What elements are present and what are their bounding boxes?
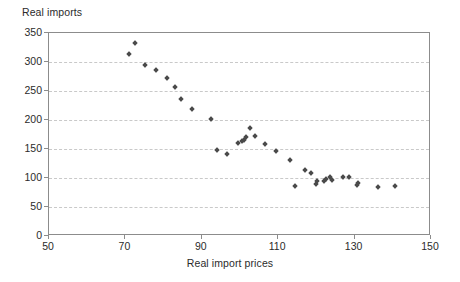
y-tick-label-100: 100 [2,171,42,183]
gridline-y-200 [49,120,429,121]
data-point [126,52,132,58]
gridline-y-150 [49,149,429,150]
x-tick-label-150: 150 [410,240,450,252]
data-point [293,183,299,189]
x-tick-mark-90 [201,235,202,239]
y-tick-label-250: 250 [2,84,42,96]
data-point [262,142,268,148]
y-tick-label-150: 150 [2,142,42,154]
data-point [189,106,195,112]
data-point [165,75,171,81]
data-point [287,157,293,163]
data-point [209,117,215,123]
data-point [252,133,258,139]
y-tick-label-0: 0 [2,229,42,241]
x-tick-label-70: 70 [104,240,144,252]
data-point [392,183,398,189]
gridline-y-250 [49,91,429,92]
x-tick-mark-150 [430,235,431,239]
y-tick-label-200: 200 [2,113,42,125]
data-point [308,171,314,177]
x-tick-mark-70 [124,235,125,239]
x-axis-title: Real import prices [0,257,460,269]
y-tick-label-50: 50 [2,200,42,212]
data-point [214,147,220,153]
data-point [132,41,138,47]
y-tick-mark-0 [44,235,48,236]
data-point [142,62,148,68]
data-point [153,67,159,73]
data-point [375,184,381,190]
x-tick-label-90: 90 [181,240,221,252]
gridline-y-300 [49,62,429,63]
x-tick-mark-50 [48,235,49,239]
x-tick-mark-110 [277,235,278,239]
y-axis-title: Real imports [22,6,82,18]
scatter-chart: Real imports 350300250200150100500507090… [0,0,460,282]
gridline-y-100 [49,178,429,179]
data-point [178,96,184,102]
x-tick-mark-130 [354,235,355,239]
x-tick-label-50: 50 [28,240,68,252]
data-point [172,84,178,90]
y-tick-label-350: 350 [2,26,42,38]
plot-area [48,32,430,235]
data-point [224,151,230,157]
x-tick-label-110: 110 [257,240,297,252]
gridline-y-50 [49,207,429,208]
y-tick-label-300: 300 [2,55,42,67]
data-point [356,180,362,186]
x-tick-label-130: 130 [334,240,374,252]
data-point [247,125,253,131]
